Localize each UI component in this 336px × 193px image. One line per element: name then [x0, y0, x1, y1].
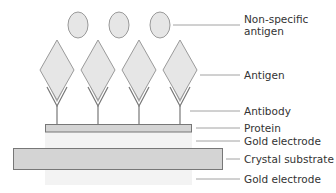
label-antigen: Antigen — [244, 69, 285, 81]
gold-electrode-bottom-layer — [45, 169, 192, 185]
antibody-group — [47, 87, 190, 124]
antigen-group — [40, 40, 197, 100]
crystal-substrate-layer — [14, 149, 223, 170]
non-specific-antigen-group — [68, 12, 170, 38]
antigen-3 — [122, 40, 156, 100]
label-non-specific-antigen-line1: Non-specific — [244, 13, 308, 25]
gold-electrode-top-layer — [45, 132, 192, 149]
non-specific-antigen-1 — [68, 12, 88, 38]
non-specific-antigen-2 — [109, 12, 129, 38]
label-non-specific-antigen: Non-specific antigen — [244, 13, 308, 37]
label-gold-electrode-top: Gold electrode — [244, 135, 321, 147]
antigen-1 — [40, 40, 74, 100]
antigen-4 — [163, 40, 197, 100]
label-gold-electrode-bottom: Gold electrode — [244, 173, 321, 185]
protein-layer — [46, 125, 192, 133]
antigen-2 — [81, 40, 115, 100]
label-non-specific-antigen-line2: antigen — [244, 25, 308, 37]
label-protein: Protein — [244, 122, 281, 134]
non-specific-antigen-3 — [150, 12, 170, 38]
label-antibody: Antibody — [244, 105, 291, 117]
label-crystal-substrate: Crystal substrate — [244, 153, 334, 165]
